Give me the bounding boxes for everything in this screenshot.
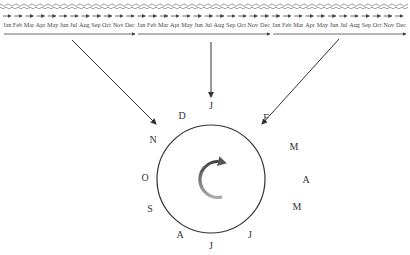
month-label: Jun [60, 21, 69, 33]
month-label: Jun [194, 21, 203, 33]
connector-arrows [72, 39, 339, 124]
cycle-label: J [248, 230, 252, 240]
month-label: Feb [282, 21, 291, 33]
month-label: Feb [13, 21, 22, 33]
month-label: Jan [272, 21, 280, 33]
month-label: May [317, 21, 328, 33]
month-label: Oct [373, 21, 382, 33]
cycle-label: D [178, 111, 185, 121]
connector-arrow-1 [72, 40, 156, 124]
wave-lines [0, 4, 408, 9]
month-row-1: JanFebMarAprMayJunJulAugSepOctNovDec [3, 21, 135, 33]
month-label: Oct [237, 21, 246, 33]
month-label: Jun [330, 21, 339, 33]
month-label: Jul [205, 21, 212, 33]
month-label: Mar [158, 21, 168, 33]
month-label: Nov [113, 21, 124, 33]
month-label: Nov [248, 21, 259, 33]
month-label: Oct [102, 21, 111, 33]
month-label: Sep [226, 21, 235, 33]
cycle-label: O [141, 173, 148, 183]
cycle-label: S [147, 204, 153, 214]
month-label: Jan [3, 21, 11, 33]
month-label: Aug [214, 21, 225, 33]
cycle-label: M [293, 202, 302, 212]
month-label: Dec [125, 21, 135, 33]
connector-arrow-3 [262, 39, 339, 124]
month-row-2: JanFebMarAprMayJunJulAugSepOctNovDec [137, 21, 270, 33]
month-label: Jul [70, 21, 77, 33]
cycle-label: A [302, 175, 309, 185]
month-label: Apr [170, 21, 180, 33]
cycle-label: A [176, 230, 183, 240]
month-label: Mar [293, 21, 303, 33]
month-label: Jul [340, 21, 347, 33]
month-row-3: JanFebMarAprMayJunJulAugSepOctNovDec [272, 21, 406, 33]
annual-cycle-circle [157, 125, 265, 233]
month-label: Feb [147, 21, 156, 33]
month-label: Apr [305, 21, 315, 33]
clockwise-rotation-icon [200, 162, 222, 198]
cycle-label: J [209, 101, 213, 111]
cycle-label: N [149, 135, 156, 145]
month-label: Sep [91, 21, 100, 33]
cycle-label: J [209, 241, 213, 251]
month-label: Mar [24, 21, 34, 33]
month-label: Jan [137, 21, 145, 33]
month-label: Dec [396, 21, 406, 33]
month-label: Apr [36, 21, 46, 33]
month-label: May [47, 21, 58, 33]
month-label: Nov [384, 21, 395, 33]
month-label: Aug [349, 21, 360, 33]
diagram-canvas [0, 0, 410, 255]
month-label: Sep [362, 21, 371, 33]
cycle-label: M [290, 142, 299, 152]
month-label: Dec [260, 21, 270, 33]
month-label: Aug [79, 21, 90, 33]
cycle-label: F [263, 113, 269, 123]
month-label: May [181, 21, 192, 33]
